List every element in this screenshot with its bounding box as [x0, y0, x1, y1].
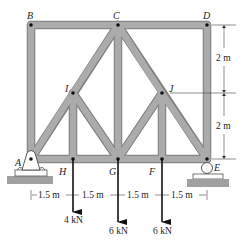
pin-I — [71, 91, 75, 95]
dim-horizontal-3: 1.5 m — [127, 190, 149, 200]
dim-vertical-lower: 2 m — [216, 121, 231, 131]
label-C: C — [113, 10, 120, 21]
dim-vertical-upper: 2 m — [216, 53, 231, 63]
roller-support-E — [187, 163, 229, 188]
pin-E — [205, 157, 209, 161]
label-A: A — [14, 157, 22, 168]
label-B: B — [27, 10, 33, 21]
pin-J — [160, 91, 164, 95]
member-I-C — [73, 25, 118, 93]
members — [31, 25, 207, 159]
label-J: J — [169, 83, 174, 94]
dim-horizontal-2: 1.5 m — [82, 190, 104, 200]
member-A-I — [31, 93, 73, 159]
label-D: D — [202, 10, 211, 21]
pin-A — [29, 157, 33, 161]
pin-D — [205, 23, 209, 27]
truss-diagram: B C D I J A H G F E 2 m 2 m 1.5 m 1.5 m … — [0, 0, 248, 246]
label-E: E — [213, 162, 220, 173]
pin-C — [116, 23, 120, 27]
label-I: I — [64, 83, 69, 94]
member-C-J — [118, 25, 162, 93]
load-label-G: 6 kN — [109, 226, 128, 236]
member-J-G — [118, 93, 162, 159]
load-label-H: 4 kN — [64, 215, 83, 225]
dim-horizontal-1: 1.5 m — [38, 190, 60, 200]
dim-horizontal-4: 1.5 m — [171, 190, 193, 200]
member-I-G — [73, 93, 118, 159]
load-label-F: 6 kN — [153, 226, 172, 236]
label-H: H — [58, 166, 67, 177]
label-F: F — [148, 166, 156, 177]
pin-B — [29, 23, 33, 27]
label-G: G — [109, 166, 116, 177]
member-J-E — [162, 93, 207, 159]
